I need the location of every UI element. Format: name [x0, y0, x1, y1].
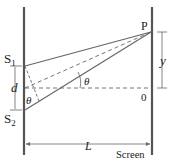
label-d: d [11, 80, 18, 95]
label-screen: Screen [116, 149, 145, 160]
theta-arc [78, 72, 81, 88]
label-theta-slit: θ [26, 94, 32, 106]
label-origin: 0 [141, 91, 147, 103]
label-y: y [158, 53, 166, 68]
double-slit-diagram: S1 S2 P y d θ θ 0 L Screen [0, 0, 171, 163]
label-L: L [84, 139, 92, 153]
label-p: P [141, 19, 148, 33]
label-s1: S1 [4, 51, 16, 68]
label-s2: S2 [4, 111, 16, 128]
ray-s1-to-p [25, 32, 151, 66]
label-theta-center: θ [84, 75, 90, 87]
ray-s2-to-p [25, 32, 151, 110]
